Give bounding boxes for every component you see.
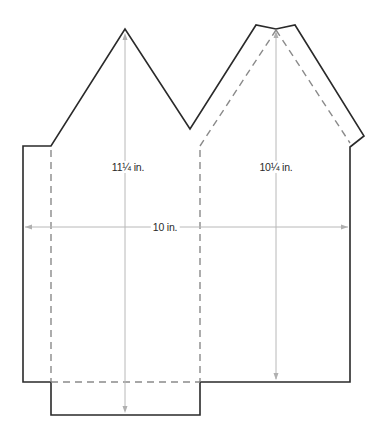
arrowhead-right-bottom	[274, 373, 279, 380]
pattern-drawing	[0, 0, 374, 435]
arrowhead-width-left	[25, 225, 32, 230]
width-label: 10 in.	[151, 221, 180, 233]
left-height-label: 11¼ in.	[110, 161, 146, 173]
arrowhead-left-top	[123, 33, 128, 40]
right-height-label: 10¼ in.	[257, 161, 294, 173]
fold-line-roof-left	[200, 30, 276, 146]
arrowhead-width-right	[341, 225, 348, 230]
arrowhead-left-bottom	[123, 406, 128, 413]
cut-outline	[23, 25, 364, 415]
fold-line-roof-right	[276, 30, 350, 143]
